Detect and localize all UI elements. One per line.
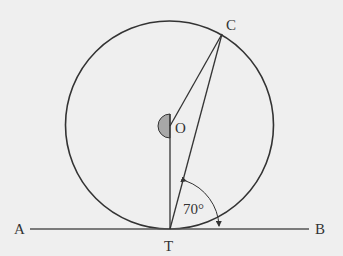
label-c: C	[226, 17, 236, 33]
geometry-diagram: A B T O C 70°	[0, 0, 343, 256]
label-a: A	[14, 221, 25, 237]
label-b: B	[315, 221, 325, 237]
diagram-svg: A B T O C 70°	[0, 0, 343, 256]
label-o: O	[175, 120, 186, 136]
label-t: T	[164, 238, 173, 254]
angle-label: 70°	[183, 201, 204, 217]
segment-oc	[170, 34, 222, 126]
reflex-angle-sector	[158, 114, 170, 138]
